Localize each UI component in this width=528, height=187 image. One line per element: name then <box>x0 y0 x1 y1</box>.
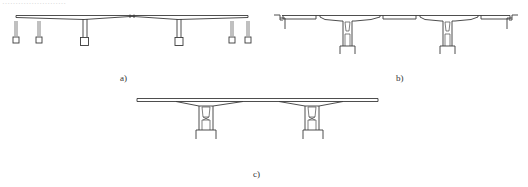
panel-b-label: b) <box>396 73 404 83</box>
panel-c-label: c) <box>253 169 260 179</box>
panel-a-drawing <box>13 15 251 46</box>
panel-a-label: a) <box>120 73 127 83</box>
panel-b-drawing <box>274 15 518 54</box>
bridge-diagrams <box>0 0 528 187</box>
panel-c-drawing <box>137 99 378 140</box>
